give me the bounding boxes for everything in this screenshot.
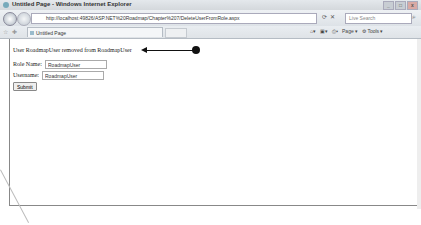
address-buttons: ⟳ ✕ [322,13,335,20]
maximize-button[interactable]: □ [395,1,406,10]
page-content: User RoadmapUser removed from RoadmapUse… [9,39,420,206]
close-button[interactable]: x [407,1,418,10]
vertical-scrollbar[interactable] [417,39,421,209]
tab-page-icon [30,31,34,35]
title-bar: Untitled Page - Windows Internet Explore… [0,0,421,10]
callout-line [146,50,194,51]
print-icon[interactable]: ⎙▾ [332,28,338,35]
minimize-button[interactable]: _ [383,1,394,10]
search-icon[interactable]: ⌕ [412,13,416,21]
url-input[interactable]: http://localhost:49826/ASP.NET%20Roadmap… [31,13,317,24]
tools-menu[interactable]: ⚙ Tools ▾ [362,28,383,35]
callout-dot [192,46,200,54]
ie-icon [3,2,9,8]
tab-untitled-page[interactable]: Untitled Page [27,27,163,37]
forward-button[interactable] [17,12,31,26]
role-name-input[interactable] [45,60,107,69]
address-bar: http://localhost:49826/ASP.NET%20Roadmap… [0,10,421,26]
refresh-icon[interactable]: ⟳ [322,13,327,20]
favorites-icons: ☆ ✚ [3,28,17,35]
username-label: Username: [13,72,39,78]
submit-button[interactable]: Submit [13,82,37,91]
window-controls: _ □ x [383,1,418,10]
status-message: User RoadmapUser removed from RoadmapUse… [13,47,132,53]
stop-icon[interactable]: ✕ [330,13,335,20]
username-input[interactable] [42,71,104,80]
feeds-icon[interactable]: ▣▾ [320,28,328,35]
favorites-star-icon[interactable]: ☆ [3,28,8,35]
tools-menu-label: Tools [367,28,379,34]
page-menu[interactable]: Page ▾ [342,28,358,35]
home-icon[interactable]: ⌂▾ [310,28,316,35]
role-name-label: Role Name: [13,61,42,67]
back-button[interactable] [3,12,17,26]
tab-bar: ☆ ✚ Untitled Page ⌂▾ ▣▾ ⎙▾ Page ▾ ⚙ Tool… [0,26,421,39]
tab-label: Untitled Page [36,30,66,36]
new-tab-button[interactable] [165,28,187,38]
add-favorites-icon[interactable]: ✚ [12,28,17,35]
page-menu-label: Page [342,28,354,34]
search-input[interactable]: Live Search [345,13,412,24]
browser-window: Untitled Page - Windows Internet Explore… [0,0,421,218]
window-title: Untitled Page - Windows Internet Explore… [12,1,132,7]
command-bar: ⌂▾ ▣▾ ⎙▾ Page ▾ ⚙ Tools ▾ [310,28,384,35]
